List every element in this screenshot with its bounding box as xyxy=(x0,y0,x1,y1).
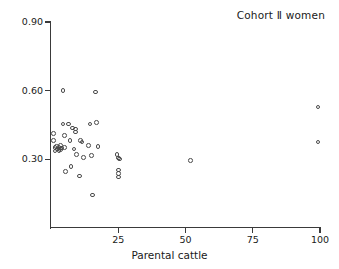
chart-title: Cohort Ⅱ women xyxy=(237,9,325,21)
data-point xyxy=(62,145,67,150)
data-point xyxy=(89,153,94,158)
data-point xyxy=(93,90,98,95)
data-point xyxy=(62,133,67,138)
x-tick-label: 50 xyxy=(179,234,191,245)
x-axis-title: Parental cattle xyxy=(0,249,339,261)
data-point xyxy=(94,120,99,125)
y-tick-label: 0.60 xyxy=(22,85,43,96)
x-tick-mark xyxy=(319,228,320,233)
x-tick-mark xyxy=(252,228,253,233)
x-tick-label: 100 xyxy=(311,234,329,245)
data-point xyxy=(90,193,95,198)
data-point xyxy=(77,174,82,179)
data-point xyxy=(68,138,73,143)
data-point xyxy=(63,169,68,174)
data-point xyxy=(188,158,193,163)
data-point xyxy=(51,131,56,136)
data-point xyxy=(96,144,101,149)
y-tick-label: 0.30 xyxy=(22,153,43,164)
data-point xyxy=(116,175,121,180)
data-point xyxy=(61,88,66,93)
data-point xyxy=(74,152,79,157)
x-tick-label: 25 xyxy=(112,234,124,245)
y-tick-label: 0.90 xyxy=(22,16,43,27)
scatter-plot-figure: Cohort Ⅱ women 0.900.600.30 255075100 Of… xyxy=(0,0,339,269)
data-point xyxy=(117,157,122,162)
data-point xyxy=(73,130,78,135)
x-tick-mark xyxy=(185,228,186,233)
x-tick-mark xyxy=(118,228,119,233)
data-point xyxy=(81,155,86,160)
data-point xyxy=(86,143,91,148)
x-tick-label: 75 xyxy=(247,234,259,245)
